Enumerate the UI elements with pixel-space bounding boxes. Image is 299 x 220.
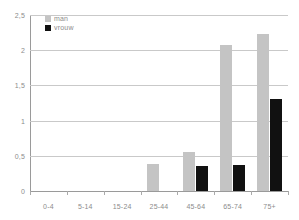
legend-item-label: vrouw [54,24,74,31]
bar-group [36,15,61,191]
bar-group [147,15,172,191]
x-axis-tick-label: 45-64 [186,203,205,210]
y-axis-tick-label: 1,5 [15,82,30,89]
x-axis-tick-label: 75+ [263,203,275,210]
bar-group [183,15,208,191]
bar-man-65-74 [220,45,232,191]
x-axis-tick-mark [141,191,142,195]
y-axis-tick-label: 0,5 [15,152,30,159]
x-axis-tick-mark [251,191,252,195]
legend-swatch-icon [45,16,51,22]
legend-item-label: man [54,15,68,22]
bar-vrouw-65-74 [233,165,245,191]
x-axis-tick-mark [214,191,215,195]
chart-legend: manvrouw [45,15,74,31]
x-axis-tick-label: 0-4 [43,203,54,210]
legend-swatch-icon [45,25,51,31]
x-axis-tick-mark [177,191,178,195]
bar-man-25-44 [147,164,159,191]
x-axis-tick-mark [288,191,289,195]
bar-man-45-64 [183,152,195,191]
bar-group [257,15,282,191]
x-axis-tick-label: 15-24 [113,203,132,210]
bar-man-75+ [257,34,269,191]
legend-item-man[interactable]: man [45,15,74,22]
y-axis-tick-label: 2,5 [15,12,30,19]
y-axis-tick-label: 2 [21,47,30,54]
x-axis-tick-mark [67,191,68,195]
x-axis-tick-mark [30,191,31,195]
gridline [30,191,288,192]
x-axis-tick-label: 25-44 [150,203,169,210]
legend-item-vrouw[interactable]: vrouw [45,24,74,31]
x-axis-tick-label: 65-74 [223,203,242,210]
bar-group [73,15,98,191]
bar-vrouw-75+ [270,99,282,191]
x-axis-tick-mark [104,191,105,195]
plot-area: 00,511,522,5 0-45-1415-2425-4445-6465-74… [30,15,288,191]
y-axis-tick-label: 0 [21,188,30,195]
bar-vrouw-45-64 [196,166,208,191]
x-axis-tick-label: 5-14 [78,203,93,210]
bar-group [110,15,135,191]
bar-group [220,15,245,191]
y-axis-tick-label: 1 [21,117,30,124]
bar-chart: 00,511,522,5 0-45-1415-2425-4445-6465-74… [0,0,299,220]
